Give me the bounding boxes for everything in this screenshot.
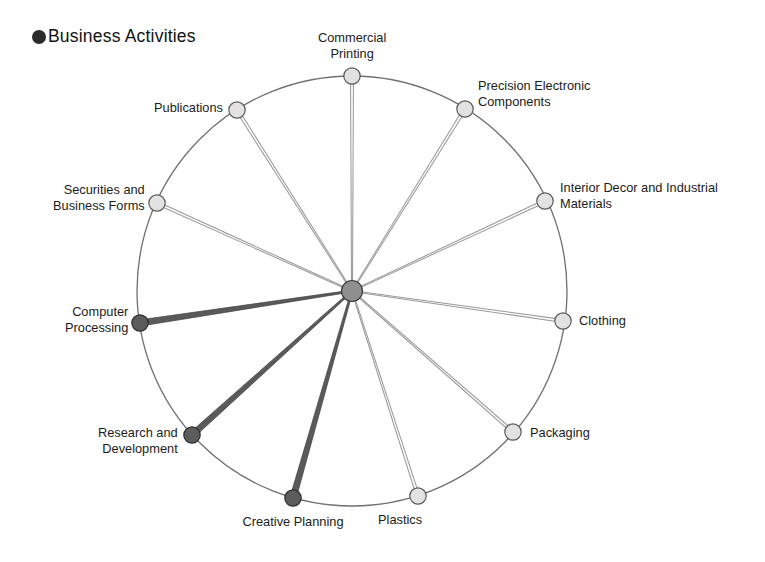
radial-diagram-svg: [0, 0, 765, 562]
node-publications[interactable]: [229, 102, 245, 118]
spoke-line: [360, 292, 560, 319]
node-label-precision-electronic-components: Precision Electronic Components: [478, 78, 590, 109]
node-securities-and-business-forms[interactable]: [149, 195, 165, 211]
center-hub-group: [342, 281, 363, 302]
node-plastics[interactable]: [410, 488, 426, 504]
node-interior-decor-and-industrial-materials[interactable]: [537, 193, 553, 209]
spoke-line: [159, 206, 344, 288]
spoke-line: [356, 111, 462, 284]
spoke-line: [360, 204, 543, 288]
spoke-line: [355, 299, 418, 493]
spoke-highlighted: [291, 299, 351, 496]
node-computer-processing[interactable]: [132, 315, 148, 331]
spoke-line: [353, 79, 354, 283]
node-label-securities-and-business-forms: Securities and Business Forms: [53, 182, 145, 213]
spoke-line: [359, 296, 512, 429]
node-packaging[interactable]: [505, 424, 521, 440]
spoke-line: [160, 203, 344, 287]
node-label-creative-planning: Creative Planning: [243, 514, 344, 530]
node-creative-planning[interactable]: [285, 490, 301, 506]
node-research-and-development[interactable]: [184, 427, 200, 443]
node-label-research-and-development: Research and Development: [98, 425, 178, 456]
legend-filled-circle-icon: [32, 30, 46, 44]
spoke-line: [357, 112, 465, 284]
node-label-computer-processing: Computer Processing: [65, 304, 128, 335]
legend-label: Business Activities: [48, 26, 196, 47]
spoke-highlighted: [143, 291, 344, 325]
node-clothing[interactable]: [555, 313, 571, 329]
node-label-packaging: Packaging: [530, 425, 590, 441]
node-label-clothing: Clothing: [579, 313, 626, 329]
spoke-highlighted: [192, 296, 346, 435]
node-label-publications: Publications: [154, 100, 223, 116]
node-label-commercial-printing: Commercial Printing: [318, 30, 386, 61]
spoke-line: [360, 293, 559, 322]
legend: Business Activities: [32, 26, 196, 47]
node-label-interior-decor-and-industrial-materials: Interior Decor and Industrial Materials: [560, 180, 718, 211]
center-hub-node[interactable]: [342, 281, 363, 302]
spoke-line: [237, 113, 347, 284]
spoke-line: [359, 201, 541, 287]
spoke-line: [240, 112, 348, 284]
node-commercial-printing[interactable]: [344, 68, 360, 84]
diagram-canvas: Business Activities Commercial PrintingP…: [0, 0, 765, 562]
spoke-line: [351, 79, 352, 283]
node-label-plastics: Plastics: [378, 512, 422, 528]
spoke-line: [354, 299, 416, 493]
spoke-line: [358, 297, 510, 431]
node-precision-electronic-components[interactable]: [457, 101, 473, 117]
